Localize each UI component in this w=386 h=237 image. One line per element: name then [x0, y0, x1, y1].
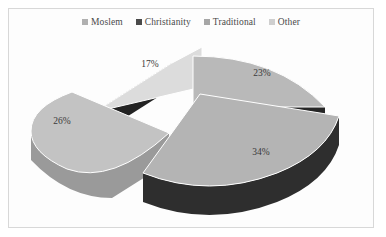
legend-item-christianity[interactable]: Christianity: [136, 17, 191, 27]
legend-item-other[interactable]: Other: [269, 17, 300, 27]
legend-label-moslem: Moslem: [91, 17, 123, 27]
legend-item-traditional[interactable]: Traditional: [204, 17, 256, 27]
pie-label-other: 17%: [141, 59, 159, 69]
pie-chart: 17% 23% 26% 34%: [9, 35, 375, 227]
pie-svg: 17% 23% 26% 34%: [9, 35, 375, 227]
legend-item-moslem[interactable]: Moslem: [82, 17, 123, 27]
chart-legend: Moslem Christianity Traditional Other: [9, 17, 373, 27]
legend-label-traditional: Traditional: [213, 17, 256, 27]
pie-slice-moslem[interactable]: [143, 94, 339, 215]
legend-swatch-moslem: [82, 19, 88, 25]
pie-label-traditional: 26%: [53, 116, 71, 126]
legend-swatch-other: [269, 19, 275, 25]
pie-label-moslem: 34%: [252, 147, 270, 157]
legend-label-christianity: Christianity: [145, 17, 191, 27]
pie-label-christianity: 23%: [253, 68, 271, 78]
legend-label-other: Other: [278, 17, 300, 27]
legend-swatch-christianity: [136, 19, 142, 25]
legend-swatch-traditional: [204, 19, 210, 25]
chart-frame: Moslem Christianity Traditional Other: [8, 8, 374, 228]
